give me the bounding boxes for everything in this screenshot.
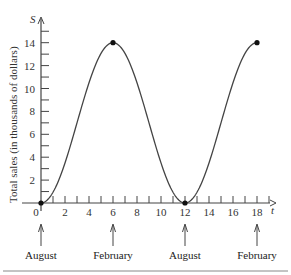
- x-tick-label: 14: [204, 206, 216, 218]
- ticks: [41, 31, 269, 203]
- tick-labels: 0246810121416182468101214: [24, 37, 263, 218]
- month-label: August: [169, 249, 201, 261]
- x-tick-label: 4: [86, 206, 92, 218]
- x-tick-label: 16: [228, 206, 240, 218]
- month-annotations: AugustFebruaryAugustFebruary: [25, 224, 277, 261]
- y-axis-label: Total sales (in thousands of dollars): [7, 46, 20, 203]
- month-label: August: [25, 249, 57, 261]
- y-tick-label: 12: [24, 60, 35, 72]
- x-tick-label: 2: [62, 206, 68, 218]
- month-label: February: [93, 249, 133, 261]
- x-tick-label: 6: [110, 206, 116, 218]
- y-tick-label: 2: [30, 174, 36, 186]
- data-point: [38, 200, 43, 205]
- x-tick-label: 10: [156, 206, 168, 218]
- x-tick-label: 8: [134, 206, 140, 218]
- y-tick-label: 14: [24, 37, 36, 49]
- data-point: [110, 40, 115, 45]
- sales-curve: [41, 43, 257, 203]
- y-tick-label: 4: [30, 151, 36, 163]
- data-point: [254, 40, 259, 45]
- x-tick-label: 0: [33, 206, 39, 218]
- month-label: February: [237, 249, 277, 261]
- data-point: [182, 200, 187, 205]
- axes: [22, 17, 276, 211]
- sales-chart: 0246810121416182468101214 AugustFebruary…: [0, 0, 291, 275]
- y-axis-name: S: [30, 13, 36, 25]
- y-tick-label: 8: [30, 105, 36, 117]
- y-tick-label: 10: [24, 83, 36, 95]
- x-tick-label: 18: [252, 206, 264, 218]
- x-axis-name: t: [271, 204, 275, 216]
- y-tick-label: 6: [30, 128, 36, 140]
- x-tick-label: 12: [180, 206, 191, 218]
